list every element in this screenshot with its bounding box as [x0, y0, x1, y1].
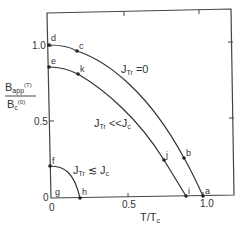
annotation-jtr-much-less-jc: JTr <<Jc: [94, 117, 131, 130]
ylabel-numerator: Bapp(T): [5, 81, 32, 95]
point-label-b: b: [186, 148, 191, 158]
ylabel-denominator: Bc(0): [7, 98, 25, 111]
annotation-jtr-approx-jc: JTr ≲ Jc: [73, 164, 109, 177]
point-label-f: f: [52, 156, 55, 166]
ytick-1: 1.0: [32, 40, 46, 51]
point-label-h: h: [82, 187, 87, 197]
xtick-05: 0.5: [122, 199, 136, 210]
point-label-g: g: [55, 187, 60, 197]
point-label-j: j: [165, 150, 168, 160]
point-label-e: e: [51, 56, 56, 66]
xtick-1: 1.0: [200, 198, 214, 209]
xtick-0: 0: [49, 202, 55, 213]
point-label-k: k: [80, 64, 85, 74]
curve-jtr-much-less-jc: [49, 67, 186, 196]
phase-diagram-chart: d c b a e k j i f g h 1.0 0.5 0 0 0.5 1.…: [0, 0, 240, 234]
xlabel: T/Tc: [140, 211, 161, 224]
point-label-d: d: [51, 33, 56, 43]
point-label-i: i: [188, 186, 190, 196]
ytick-05: 0.5: [34, 116, 48, 127]
point-label-a: a: [205, 186, 210, 196]
annotation-jtr-zero: JTr =0: [121, 63, 148, 76]
point-label-c: c: [79, 41, 84, 51]
